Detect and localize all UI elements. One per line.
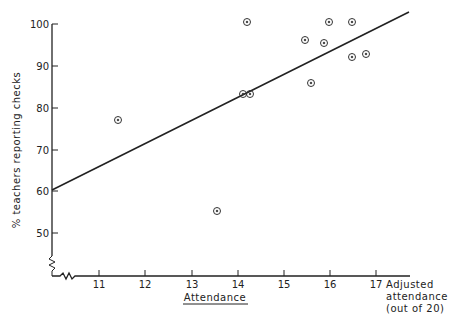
y-tick-50: 50 (36, 228, 49, 239)
point-marker-icon (363, 51, 370, 58)
x-tick-13: 13 (186, 279, 199, 290)
x-ticks (99, 270, 376, 276)
point-marker-icon (349, 19, 356, 26)
y-tick-60: 60 (36, 186, 49, 197)
point-marker-icon (326, 19, 333, 26)
adjusted-label-line2: attendance (386, 291, 448, 302)
point-marker-icon (214, 208, 221, 215)
y-tick-90: 90 (36, 61, 49, 72)
data-points (115, 19, 370, 215)
y-axis-break-icon (49, 256, 55, 276)
point-marker-icon (321, 40, 328, 47)
point-marker-icon (349, 54, 356, 61)
y-tick-70: 70 (36, 145, 49, 156)
x-tick-17: 17 (370, 279, 383, 290)
y-ticks (52, 24, 58, 233)
adjusted-label-line1: Adjusted (386, 279, 434, 290)
point-marker-icon (244, 19, 251, 26)
x-axis-label: Attendance (184, 292, 246, 303)
y-tick-100: 100 (30, 19, 49, 30)
point-marker-icon (308, 80, 315, 87)
x-tick-14: 14 (232, 279, 245, 290)
point-marker-icon (115, 117, 122, 124)
point-marker-icon (302, 37, 309, 44)
regression-line (52, 12, 409, 190)
y-tick-80: 80 (36, 103, 49, 114)
y-axis-label: % teachers reporting checks (11, 72, 22, 229)
x-tick-12: 12 (139, 279, 152, 290)
x-tick-15: 15 (278, 279, 291, 290)
x-tick-11: 11 (93, 279, 106, 290)
scatter-chart: 100 90 80 70 60 50 11 12 13 14 15 16 17 … (0, 0, 452, 314)
adjusted-label-line3: (out of 20) (386, 303, 444, 314)
x-tick-16: 16 (324, 279, 337, 290)
